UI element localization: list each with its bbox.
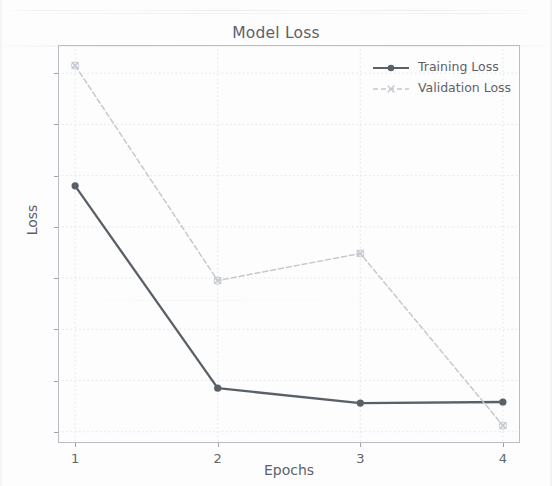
x-tick-mark	[503, 443, 504, 447]
x-tick-label: 1	[60, 451, 90, 466]
chart-title: Model Loss	[0, 24, 552, 42]
y-axis-label: Loss	[24, 190, 40, 250]
x-tick-label: 4	[488, 451, 518, 466]
x-axis-label: Epochs	[58, 462, 520, 478]
legend-label-validation-loss: Validation Loss	[418, 80, 511, 95]
scan-artifact-band	[0, 13, 552, 14]
legend-swatch-validation-loss	[372, 81, 410, 95]
legend-swatch-training-loss	[372, 60, 410, 74]
x-tick-mark	[360, 443, 361, 447]
x-tick-label: 3	[345, 451, 375, 466]
x-tick-mark	[75, 443, 76, 447]
scan-artifact-band	[0, 10, 552, 11]
chart-legend: Training Loss Validation Loss	[372, 56, 517, 98]
legend-label-training-loss: Training Loss	[418, 59, 499, 74]
x-tick-label: 2	[203, 451, 233, 466]
model-loss-figure: Model Loss Loss Epochs 0.00.10.20.30.40.…	[0, 0, 552, 486]
plot-area	[58, 45, 520, 443]
x-tick-mark	[218, 443, 219, 447]
scan-artifact-edge	[0, 0, 3, 486]
plot-frame	[58, 45, 520, 443]
legend-item-training-loss[interactable]: Training Loss	[372, 56, 517, 77]
legend-item-validation-loss[interactable]: Validation Loss	[372, 77, 517, 98]
